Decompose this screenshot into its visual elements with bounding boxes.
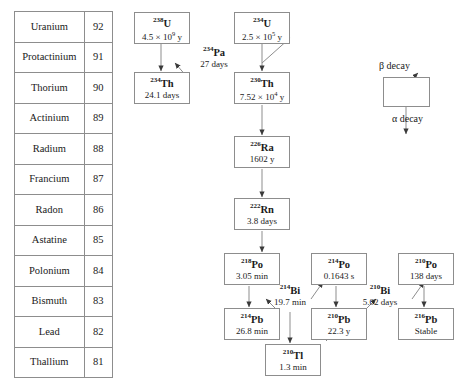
nuclide-symbol-po218: 218Po [225,257,279,271]
nuclide-box-th234: 234Th 24.1 days [134,72,190,104]
nuclide-box-th230: 230Th 7.52 × 104 y [234,72,290,104]
nuclide-halflife-u238: 4.5 × 109 y [135,30,189,43]
nuclide-box-pb216: 216Pb Stable [398,308,454,340]
nuclide-symbol-u238: 238U [135,16,189,30]
decay-chain-diagram: 238U 4.5 × 109 y 234U 2.5 × 105 y 234Th … [0,0,465,386]
legend-reference-box [383,77,430,107]
nuclide-symbol-ra226: 226Ra [235,140,289,154]
nuclide-symbol-bi214: 214Bi [262,283,318,297]
nuclide-symbol-u234: 234U [235,16,289,30]
nuclide-box-u234: 234U 2.5 × 105 y [234,12,290,44]
nuclide-box-po218: 218Po 3.05 min [224,253,280,285]
nuclide-box-po210: 210Po 138 days [398,253,454,285]
nuclide-label-pa234: 234Pa 27 days [186,45,242,69]
nuclide-halflife-po218: 3.05 min [225,271,279,282]
nuclide-box-tl210: 210Tl 1.3 min [265,344,321,376]
nuclide-symbol-rn222: 222Rn [235,202,289,216]
nuclide-halflife-bi214: 19.7 min [262,297,318,308]
nuclide-symbol-pa234: 234Pa [186,45,242,59]
nuclide-symbol-pb210: 210Pb [312,312,366,326]
legend-alpha-label: α decay [392,113,423,124]
nuclide-halflife-u234: 2.5 × 105 y [235,30,289,43]
nuclide-halflife-ra226: 1602 y [235,154,289,165]
nuclide-halflife-pa234: 27 days [186,59,242,70]
nuclide-box-u238: 238U 4.5 × 109 y [134,12,190,44]
nuclide-box-pb210: 210Pb 22.3 y [311,308,367,340]
nuclide-halflife-th230: 7.52 × 104 y [235,90,289,103]
nuclide-box-po214: 214Po 0.1643 s [311,253,367,285]
nuclide-box-pb214: 214Pb 26.8 min [224,308,280,340]
nuclide-halflife-tl210: 1.3 min [266,362,320,373]
nuclide-symbol-po214: 214Po [312,257,366,271]
nuclide-box-ra226: 226Ra 1602 y [234,136,290,168]
nuclide-symbol-th234: 234Th [135,76,189,90]
nuclide-symbol-pb216: 216Pb [399,312,453,326]
nuclide-label-bi210: 210Bi 5.02 days [350,283,410,307]
nuclide-symbol-th230: 230Th [235,76,289,90]
nuclide-halflife-po210: 138 days [399,271,453,282]
nuclide-halflife-po214: 0.1643 s [312,271,366,282]
nuclide-symbol-tl210: 210Tl [266,348,320,362]
nuclide-halflife-pb216: Stable [399,326,453,337]
nuclide-symbol-bi210: 210Bi [350,283,410,297]
nuclide-halflife-th234: 24.1 days [135,90,189,101]
nuclide-halflife-rn222: 3.8 days [235,216,289,227]
nuclide-label-bi214: 214Bi 19.7 min [262,283,318,307]
nuclide-halflife-pb210: 22.3 y [312,326,366,337]
nuclide-box-rn222: 222Rn 3.8 days [234,198,290,230]
legend-beta-label: β decay [379,60,410,71]
nuclide-halflife-pb214: 26.8 min [225,326,279,337]
nuclide-halflife-bi210: 5.02 days [350,297,410,308]
nuclide-symbol-po210: 210Po [399,257,453,271]
nuclide-symbol-pb214: 214Pb [225,312,279,326]
